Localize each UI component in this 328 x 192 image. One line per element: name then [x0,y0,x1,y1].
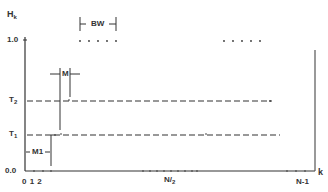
y-tick-label-t2: T2 [9,96,17,105]
t1-point-marker [60,133,62,135]
x-axis-title: k [318,168,323,177]
y-tick-label-1.0: 1.0 [7,36,18,44]
bw-label: BW [91,20,104,28]
m1-label: M1 [32,148,43,156]
mirror-passband-dots [223,40,261,42]
t1-mid-marker [205,133,207,135]
bw-passband-dots [79,40,117,42]
t2-end-marker [269,100,271,102]
t2-point-marker [68,99,70,101]
spectrum-threshold-diagram [0,0,328,192]
y-axis-title: Hk [7,10,17,20]
m-label: M [62,70,69,78]
y-tick-label-t1: T1 [9,130,17,139]
x-tick-label-start: 0 1 2 [22,178,42,186]
y-tick-label-0.0: 0.0 [5,167,16,175]
x-tick-label-end: N-1 [296,178,309,186]
x-tick-label-mid: N/2 [164,176,175,185]
